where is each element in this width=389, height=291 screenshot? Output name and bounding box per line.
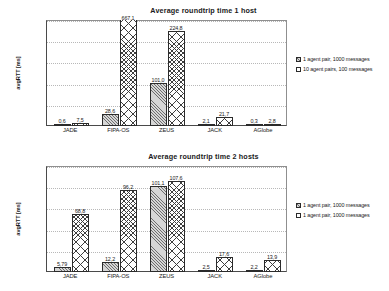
y-axis-tick-mark (46, 86, 47, 87)
chart-legend: 1 agent pair, 1000 messages1 agent pair,… (296, 202, 388, 222)
chart-legend: 1 agent pair, 1000 messages10 agent pair… (296, 56, 388, 76)
y-axis-tick-mark (46, 168, 47, 169)
gridline: 75,0 (47, 209, 286, 210)
legend-label: 1 agent pair, 1000 messages (303, 212, 370, 218)
legend-label: 10 agent pairs, 100 messages (303, 66, 372, 72)
plot-area: 0,050,0100,0150,0200,0250,0 (46, 20, 287, 126)
x-axis-labels: JADEFIPA-OSZEUSJACKAGlobe (46, 273, 287, 279)
y-axis-tick-mark (46, 253, 47, 254)
y-axis-tick-mark (46, 22, 47, 23)
x-axis-category-label: FIPA-OS (94, 273, 142, 279)
y-axis-label-text: avgRTT [ms] (15, 56, 21, 89)
x-axis-category-label: JACK (191, 273, 239, 279)
y-axis-label: avgRTT [ms] (13, 166, 23, 272)
x-axis-category-label: ZEUS (142, 127, 190, 133)
y-axis-label-text: avgRTT [ms] (15, 202, 21, 235)
legend-swatch-icon (296, 67, 301, 72)
x-axis-category-label: JADE (46, 127, 94, 133)
chart-page: Average roundtrip time 1 host avgRTT [ms… (0, 0, 389, 291)
legend-label: 1 agent pair, 1000 messages (303, 202, 370, 208)
gridline: 50,0 (47, 106, 286, 107)
x-axis-category-label: FIPA-OS (94, 127, 142, 133)
x-axis-category-label: JADE (46, 273, 94, 279)
gridline: 150,0 (47, 63, 286, 64)
gridline: 25,0 (47, 252, 286, 253)
gridline: 200,0 (47, 42, 286, 43)
plot-area: 0,025,050,075,0100,0125,0 (46, 166, 287, 272)
x-axis-category-label: AGlobe (239, 273, 287, 279)
legend-swatch-icon (296, 203, 301, 208)
x-axis-labels: JADEFIPA-OSZEUSJACKAGlobe (46, 127, 287, 133)
legend-item[interactable]: 10 agent pairs, 100 messages (296, 66, 388, 72)
y-axis-tick-mark (46, 43, 47, 44)
y-axis-label: avgRTT [ms] (13, 20, 23, 126)
chart-roundtrip-1-host: Average roundtrip time 1 host avgRTT [ms… (0, 0, 389, 145)
chart-roundtrip-2-hosts: Average roundtrip time 2 hosts avgRTT [m… (0, 146, 389, 291)
x-axis-category-label: JACK (191, 127, 239, 133)
gridline: 125,0 (47, 167, 286, 168)
x-axis-category-label: AGlobe (239, 127, 287, 133)
legend-swatch-icon (296, 57, 301, 62)
legend-item[interactable]: 1 agent pair, 1000 messages (296, 56, 388, 62)
gridline: 100,0 (47, 188, 286, 189)
chart-title: Average roundtrip time 2 hosts (0, 152, 389, 161)
legend-swatch-icon (296, 213, 301, 218)
legend-label: 1 agent pair, 1000 messages (303, 56, 370, 62)
y-axis-tick-mark (46, 64, 47, 65)
y-axis-tick-mark (46, 107, 47, 108)
y-axis-tick-mark (46, 210, 47, 211)
y-axis-tick-mark (46, 189, 47, 190)
gridline: 100,0 (47, 85, 286, 86)
legend-item[interactable]: 1 agent pair, 1000 messages (296, 212, 388, 218)
gridline: 50,0 (47, 231, 286, 232)
legend-item[interactable]: 1 agent pair, 1000 messages (296, 202, 388, 208)
chart-title: Average roundtrip time 1 host (0, 6, 389, 15)
y-axis-tick-mark (46, 232, 47, 233)
x-axis-category-label: ZEUS (142, 273, 190, 279)
gridline: 250,0 (47, 21, 286, 22)
